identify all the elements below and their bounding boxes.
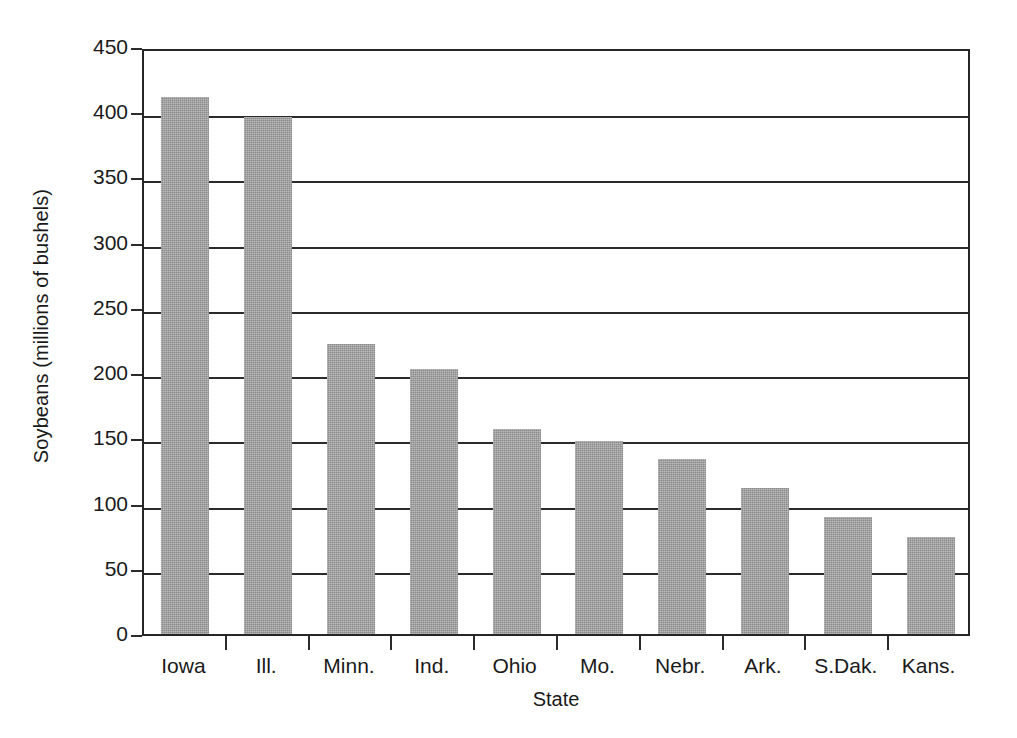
y-tick-mark bbox=[131, 309, 142, 311]
x-tick-label-ind: Ind. bbox=[414, 654, 449, 678]
x-tick-label-s-dak: S.Dak. bbox=[814, 654, 877, 678]
y-axis-ticks: 050100150200250300350400450 bbox=[0, 49, 142, 636]
y-tick-label: 200 bbox=[93, 361, 128, 385]
plot-area bbox=[142, 49, 970, 636]
x-axis-title: State bbox=[142, 688, 970, 711]
bar bbox=[410, 369, 458, 634]
y-tick-label: 300 bbox=[93, 231, 128, 255]
x-tick-label-nebr: Nebr. bbox=[655, 654, 705, 678]
bar bbox=[658, 459, 706, 634]
x-tick-label-ohio: Ohio bbox=[492, 654, 536, 678]
x-tick-mark bbox=[722, 636, 724, 650]
x-tick-mark bbox=[473, 636, 475, 650]
x-tick-label-kans: Kans. bbox=[902, 654, 956, 678]
y-tick-mark bbox=[131, 570, 142, 572]
bar-chart-figure: Soybeans (millions of bushels) 050100150… bbox=[0, 0, 1017, 738]
y-tick-label: 100 bbox=[93, 492, 128, 516]
x-tick-mark bbox=[225, 636, 227, 650]
x-tick-label-iowa: Iowa bbox=[161, 654, 205, 678]
bar bbox=[493, 429, 541, 634]
y-tick-label: 250 bbox=[93, 296, 128, 320]
x-tick-mark bbox=[887, 636, 889, 650]
y-tick-label: 0 bbox=[116, 622, 128, 646]
y-tick-mark bbox=[131, 635, 142, 637]
x-tick-mark bbox=[390, 636, 392, 650]
x-tick-mark bbox=[639, 636, 641, 650]
y-tick-mark bbox=[131, 505, 142, 507]
x-tick-label-ark: Ark. bbox=[744, 654, 781, 678]
x-tick-label-ill: Ill. bbox=[256, 654, 277, 678]
y-tick-label: 450 bbox=[93, 35, 128, 59]
y-tick-mark bbox=[131, 244, 142, 246]
x-tick-mark bbox=[308, 636, 310, 650]
bar bbox=[244, 117, 292, 634]
y-tick-mark bbox=[131, 439, 142, 441]
x-tick-mark bbox=[804, 636, 806, 650]
x-tick-label-mo: Mo. bbox=[580, 654, 615, 678]
y-tick-label: 150 bbox=[93, 426, 128, 450]
bar bbox=[161, 97, 209, 634]
bar bbox=[575, 441, 623, 634]
y-tick-label: 50 bbox=[105, 557, 128, 581]
y-tick-mark bbox=[131, 113, 142, 115]
y-tick-mark bbox=[131, 374, 142, 376]
bar bbox=[824, 517, 872, 634]
y-tick-mark bbox=[131, 48, 142, 50]
y-tick-mark bbox=[131, 178, 142, 180]
bar bbox=[327, 344, 375, 634]
bar bbox=[741, 488, 789, 634]
y-tick-label: 350 bbox=[93, 165, 128, 189]
x-axis: IowaIll.Minn.Ind.OhioMo.Nebr.Ark.S.Dak.K… bbox=[142, 636, 970, 696]
bar bbox=[907, 537, 955, 634]
y-tick-label: 400 bbox=[93, 100, 128, 124]
x-tick-label-minn: Minn. bbox=[323, 654, 374, 678]
x-tick-mark bbox=[556, 636, 558, 650]
